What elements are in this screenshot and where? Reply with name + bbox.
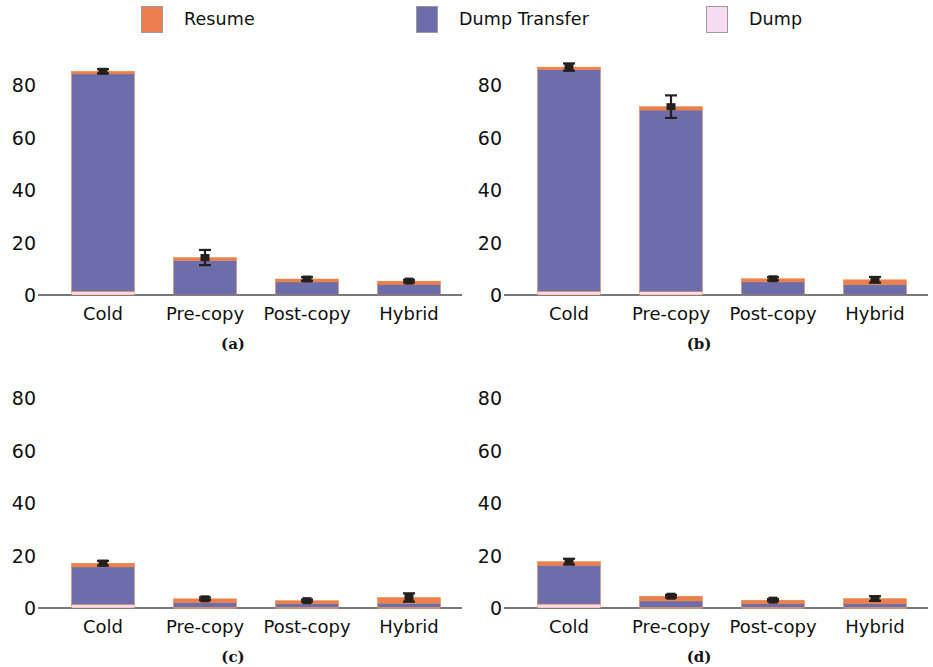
plot-area-c: 020406080ColdPre-copyPost-copyHybrid [0,355,466,645]
error-bar [97,68,109,75]
y-tick-label: 0 [490,284,502,306]
legend-swatch-dump-icon [706,6,728,33]
x-category-label: Hybrid [845,616,904,637]
y-tick-label: 20 [478,232,502,254]
error-bar [301,597,313,604]
error-bar [301,276,313,283]
error-bar [563,63,575,70]
x-category-label: Post-copy [263,303,350,324]
bar-segment [538,565,601,604]
y-tick-label: 0 [490,597,502,619]
bar-segment [640,110,703,292]
bar-segment [742,282,805,295]
bar-segment [276,604,339,607]
y-tick-label: 80 [478,74,502,96]
x-category-label: Pre-copy [166,303,244,324]
y-tick-label: 40 [12,492,36,514]
bar-segment [72,567,135,604]
error-bar [403,278,415,285]
bar-segment [72,604,135,608]
legend-label-dump-transfer: Dump Transfer [459,9,589,29]
y-tick-label: 20 [12,545,36,567]
panel-caption-c: (c) [0,648,466,666]
error-bar [403,593,415,601]
y-tick-label: 0 [24,597,36,619]
x-category-label: Hybrid [379,303,438,324]
x-category-label: Post-copy [729,303,816,324]
error-bar [767,597,779,604]
legend-entry-dump-transfer: Dump Transfer [416,4,589,34]
x-category-label: Hybrid [379,616,438,637]
bar-segment [72,74,135,291]
y-tick-label: 60 [12,127,36,149]
plot-area-d: 020406080ColdPre-copyPost-copyHybrid [466,355,932,645]
bar-segment [844,285,907,295]
bar-segment [174,603,237,607]
x-category-label: Post-copy [729,616,816,637]
legend-label-dump: Dump [749,9,802,29]
bar-segment [640,601,703,607]
legend-swatch-dump-transfer-icon [416,6,438,33]
error-bar [869,595,881,602]
x-category-label: Pre-copy [632,616,710,637]
x-category-label: Cold [83,616,123,637]
y-tick-label: 40 [478,492,502,514]
y-tick-label: 80 [12,74,36,96]
bar-segment [538,604,601,608]
x-category-label: Post-copy [263,616,350,637]
y-tick-label: 0 [24,284,36,306]
x-category-label: Pre-copy [632,303,710,324]
chart-panel-b: 020406080ColdPre-copyPost-copyHybrid (b) [466,42,932,355]
y-tick-label: 80 [478,387,502,409]
error-bar [563,558,575,565]
y-tick-label: 40 [12,179,36,201]
bar-segment [378,603,441,607]
error-bar [199,595,211,602]
bar-segment [538,291,601,295]
panel-caption-b: (b) [466,335,932,353]
error-bar [869,276,881,283]
y-tick-label: 60 [478,440,502,462]
plot-area-a: 020406080ColdPre-copyPost-copyHybrid [0,42,466,332]
error-bar [97,560,109,567]
bar-segment [742,604,805,607]
bar-segment [844,604,907,607]
x-category-label: Hybrid [845,303,904,324]
y-tick-label: 60 [478,127,502,149]
y-tick-label: 40 [478,179,502,201]
y-tick-label: 20 [478,545,502,567]
x-category-label: Cold [549,303,589,324]
chart-panel-d: 020406080ColdPre-copyPost-copyHybrid (d) [466,355,932,667]
chart-panel-c: 020406080ColdPre-copyPost-copyHybrid (c) [0,355,466,667]
bar-segment [72,291,135,295]
y-tick-label: 60 [12,440,36,462]
legend-entry-dump: Dump [706,4,802,34]
bar-segment [640,292,703,295]
y-tick-label: 20 [12,232,36,254]
bar-segment [378,284,441,295]
error-bar [665,593,677,600]
y-tick-label: 80 [12,387,36,409]
panel-caption-d: (d) [466,648,932,666]
panel-caption-a: (a) [0,335,466,353]
x-category-label: Cold [549,616,589,637]
plot-area-b: 020406080ColdPre-copyPost-copyHybrid [466,42,932,332]
legend-entry-resume: Resume [141,4,255,34]
bar-segment [276,282,339,295]
chart-legend: Resume Dump Transfer Dump [0,0,933,40]
bar-segment [538,70,601,292]
error-bar [767,275,779,282]
x-category-label: Cold [83,303,123,324]
legend-swatch-resume-icon [141,6,163,33]
legend-label-resume: Resume [184,9,255,29]
x-category-label: Pre-copy [166,616,244,637]
chart-panel-a: 020406080ColdPre-copyPost-copyHybrid (a) [0,42,466,355]
